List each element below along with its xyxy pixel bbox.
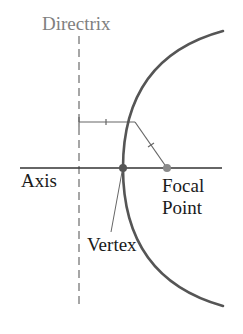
vertex-label: Vertex <box>87 234 137 255</box>
focal-point-dot <box>163 164 171 172</box>
focal-point-label-line2: Point <box>162 197 203 218</box>
focal-point-label-line1: Focal <box>162 175 204 196</box>
vertex-dot <box>119 164 127 172</box>
vertex-pointer-line <box>111 172 122 232</box>
equal-length-tick-2 <box>148 143 154 147</box>
parabola-diagram: Directrix Axis Focal Point Vertex <box>0 0 243 334</box>
directrix-label: Directrix <box>42 13 111 34</box>
axis-label: Axis <box>21 170 57 191</box>
